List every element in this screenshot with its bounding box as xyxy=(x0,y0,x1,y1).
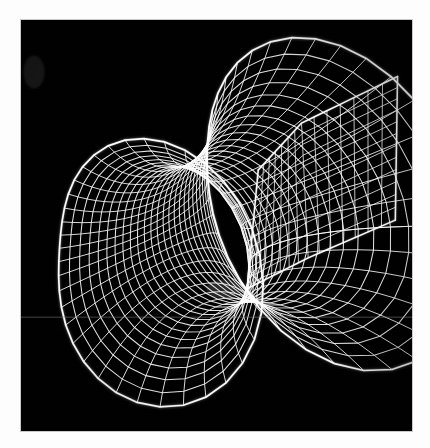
figure-frame xyxy=(0,0,430,448)
tip-highlight xyxy=(24,56,44,88)
render-canvas xyxy=(21,20,412,431)
wireframe-svg xyxy=(21,20,412,431)
